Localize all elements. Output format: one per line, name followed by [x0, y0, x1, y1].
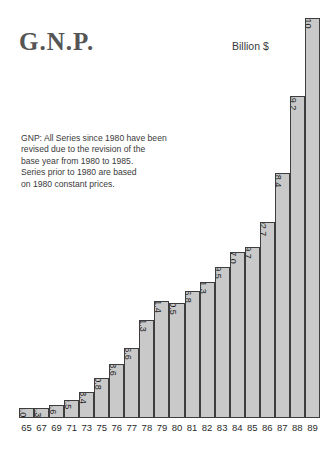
bar-value-label: 169.2: [290, 96, 298, 110]
bar-value-label: 4.3: [34, 408, 42, 417]
bar-value-label: 89.7: [245, 247, 253, 259]
bar-value-label: 210: [305, 18, 313, 29]
bar-cell: 28.6: [109, 18, 124, 418]
bars-container: 3.04.36.69.513.420.828.636.651.361.460.5…: [19, 18, 320, 418]
bar-value-label: 61.4: [154, 301, 162, 313]
bar[interactable]: 89.7: [245, 247, 260, 418]
bar-value-label: 128.4: [275, 173, 283, 187]
x-axis-tick: 82: [200, 421, 215, 437]
bar-cell: 61.4: [154, 18, 169, 418]
x-axis-tick: 78: [139, 421, 154, 437]
x-axis-tick: 79: [154, 421, 169, 437]
bar-cell: 3.0: [19, 18, 34, 418]
bar[interactable]: 13.4: [79, 392, 94, 418]
bar[interactable]: 128.4: [275, 173, 290, 418]
bar-value-label: 20.8: [94, 378, 102, 390]
bar[interactable]: 36.6: [124, 348, 139, 418]
x-axis-tick: 76: [109, 421, 124, 437]
bar-cell: 128.4: [275, 18, 290, 418]
bar[interactable]: 210: [305, 18, 320, 418]
bar-cell: 20.8: [94, 18, 109, 418]
x-axis-tick: 69: [49, 421, 64, 437]
bar-cell: 169.2: [290, 18, 305, 418]
bar-value-label: 9.5: [64, 400, 72, 409]
bar[interactable]: 169.2: [290, 96, 305, 418]
bar-cell: 4.3: [34, 18, 49, 418]
x-axis-tick: 75: [94, 421, 109, 437]
x-axis-tick: 77: [124, 421, 139, 437]
bar-value-label: 28.6: [109, 364, 117, 376]
bar[interactable]: 102.7: [260, 222, 275, 418]
bar[interactable]: 71.3: [200, 282, 215, 418]
bar-cell: 66.8: [185, 18, 200, 418]
x-axis-tick: 89: [305, 421, 320, 437]
bar[interactable]: 51.3: [139, 320, 154, 418]
bar-cell: 87.0: [230, 18, 245, 418]
x-axis-tick: 83: [215, 421, 230, 437]
bar-value-label: 87.0: [230, 252, 238, 264]
bar-value-label: 13.4: [79, 392, 87, 404]
x-axis-tick: 81: [185, 421, 200, 437]
x-axis-tick: 73: [79, 421, 94, 437]
x-axis-line: [19, 417, 320, 418]
x-axis-tick: 85: [245, 421, 260, 437]
bar-value-label: 36.6: [124, 348, 132, 360]
bar-cell: 79.5: [215, 18, 230, 418]
bar-cell: 9.5: [64, 18, 79, 418]
bar[interactable]: 79.5: [215, 267, 230, 418]
bar[interactable]: 20.8: [94, 378, 109, 418]
bar-cell: 60.5: [169, 18, 184, 418]
x-axis-tick: 67: [34, 421, 49, 437]
x-axis-tick: 65: [19, 421, 34, 437]
x-axis-tick: 71: [64, 421, 79, 437]
bar[interactable]: 28.6: [109, 364, 124, 418]
chart-page: G.N.P. Billion $ GNP: All Series since 1…: [0, 0, 333, 454]
bar[interactable]: 66.8: [185, 291, 200, 418]
bar-cell: 71.3: [200, 18, 215, 418]
bar-value-label: 71.3: [200, 282, 208, 294]
bar[interactable]: 87.0: [230, 252, 245, 418]
bar-value-label: 6.6: [49, 405, 57, 414]
bar-cell: 51.3: [139, 18, 154, 418]
x-axis-tick-labels: 6567697173757677787980818283848586878889: [19, 421, 320, 437]
x-axis-tick: 87: [275, 421, 290, 437]
bar-cell: 36.6: [124, 18, 139, 418]
bar-value-label: 79.5: [215, 267, 223, 279]
bar-value-label: 102.7: [260, 222, 268, 236]
bar-cell: 210: [305, 18, 320, 418]
plot-area: 3.04.36.69.513.420.828.636.651.361.460.5…: [19, 17, 320, 418]
bar[interactable]: 9.5: [64, 400, 79, 418]
bar-value-label: 51.3: [139, 320, 147, 332]
bar-value-label: 66.8: [185, 291, 193, 303]
x-axis-tick: 84: [230, 421, 245, 437]
bar[interactable]: 61.4: [154, 301, 169, 418]
bar-value-label: 3.0: [19, 408, 27, 417]
bar-value-label: 60.5: [169, 303, 177, 315]
x-axis-tick: 88: [290, 421, 305, 437]
bar-cell: 13.4: [79, 18, 94, 418]
x-axis-tick: 86: [260, 421, 275, 437]
bar[interactable]: 60.5: [169, 303, 184, 418]
bar-cell: 102.7: [260, 18, 275, 418]
bar-cell: 89.7: [245, 18, 260, 418]
bar-cell: 6.6: [49, 18, 64, 418]
x-axis-tick: 80: [169, 421, 184, 437]
